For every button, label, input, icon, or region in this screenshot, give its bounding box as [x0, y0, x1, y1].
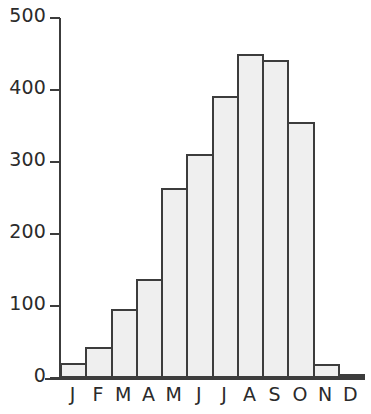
y-tick-label: 200 — [9, 222, 46, 241]
x-tick-label-3: A — [136, 384, 161, 405]
y-tick-mark — [50, 17, 60, 19]
bar-S-8 — [262, 60, 289, 378]
y-tick-mark — [50, 305, 60, 307]
y-tick-mark — [50, 89, 60, 91]
y-tick-label: 500 — [9, 6, 46, 25]
y-tick-label: 300 — [9, 150, 46, 169]
bar-J-0 — [60, 363, 87, 378]
x-tick-label-11: D — [338, 384, 363, 405]
x-tick-label-4: M — [161, 384, 186, 405]
y-tick-mark — [50, 233, 60, 235]
x-tick-label-5: J — [186, 384, 211, 405]
bar-N-10 — [313, 364, 340, 378]
bar-J-5 — [186, 154, 213, 378]
y-tick-mark — [50, 161, 60, 163]
y-tick-label: 100 — [9, 294, 46, 313]
y-tick-label: 400 — [9, 78, 46, 97]
x-tick-label-9: O — [287, 384, 312, 405]
x-axis-line — [45, 378, 365, 380]
bar-A-7 — [237, 54, 264, 378]
x-tick-label-1: F — [85, 384, 110, 405]
bar-J-6 — [212, 96, 239, 378]
x-tick-label-6: J — [212, 384, 237, 405]
bar-O-9 — [287, 122, 314, 378]
x-tick-label-7: A — [237, 384, 262, 405]
bar-M-4 — [161, 188, 188, 378]
bar-D-11 — [338, 374, 365, 378]
bar-chart: 0100200300400500 JFMAMJJASOND — [0, 0, 371, 414]
y-tick-label: 0 — [34, 366, 46, 385]
x-tick-label-8: S — [262, 384, 287, 405]
bar-A-3 — [136, 279, 163, 378]
x-tick-label-10: N — [313, 384, 338, 405]
bar-F-1 — [85, 347, 112, 378]
x-tick-label-0: J — [60, 384, 85, 405]
bar-M-2 — [111, 309, 138, 378]
x-tick-label-2: M — [111, 384, 136, 405]
plot-area — [60, 0, 363, 378]
